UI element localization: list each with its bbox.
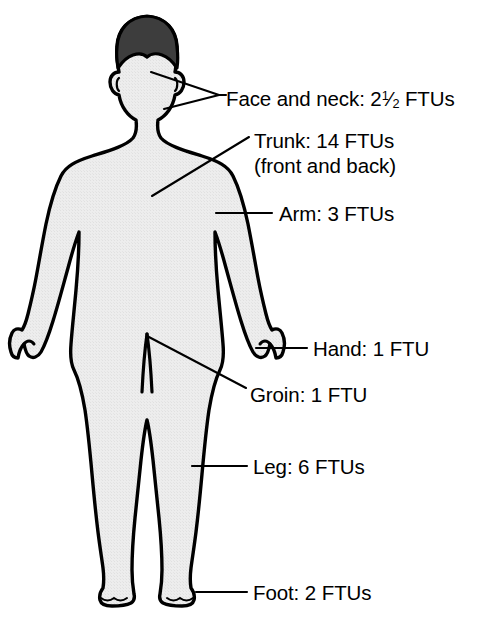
label-arm: Arm: 3 FTUs (279, 201, 394, 226)
label-trunk-line1: Trunk: 14 FTUs (254, 129, 394, 152)
ftu-body-diagram: Face and neck: 21⁄2 FTUs Trunk: 14 FTUs … (0, 0, 495, 637)
label-face-and-neck-prefix: Face and neck: 2 (226, 87, 382, 110)
label-face-and-neck: Face and neck: 21⁄2 FTUs (226, 83, 455, 115)
fraction-one-half: 1⁄2 (382, 87, 400, 110)
label-foot: Foot: 2 FTUs (253, 580, 371, 605)
label-face-and-neck-suffix: FTUs (399, 87, 454, 110)
label-trunk: Trunk: 14 FTUs (front and back) (254, 128, 396, 178)
label-leg: Leg: 6 FTUs (253, 454, 365, 479)
label-hand: Hand: 1 FTU (313, 336, 429, 361)
label-groin: Groin: 1 FTU (250, 382, 367, 407)
fraction-numerator: 1 (382, 88, 389, 103)
label-trunk-line2: (front and back) (254, 153, 396, 178)
